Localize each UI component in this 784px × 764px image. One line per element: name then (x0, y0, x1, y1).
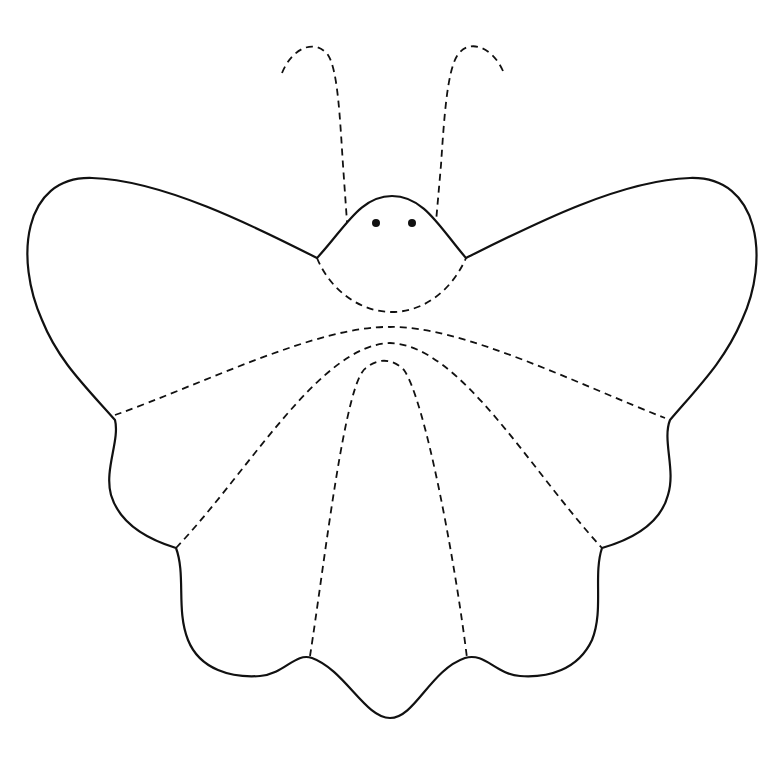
inner-wing-fold (310, 361, 467, 658)
left-eye (372, 219, 380, 227)
butterfly-outline (27, 178, 756, 718)
right-eye (408, 219, 416, 227)
upper-wing-fold (115, 327, 665, 418)
left-antenna (282, 47, 347, 222)
middle-wing-fold (176, 343, 602, 548)
butterfly-drawing (0, 0, 784, 764)
head-fold-line (317, 258, 466, 312)
right-antenna (436, 46, 503, 222)
